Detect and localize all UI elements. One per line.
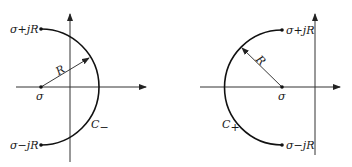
contour-diagrams: σ+jR σ−jR σ R C− σ+jR σ−jR σ R C+	[0, 0, 352, 167]
right-bottom-label: σ−jR	[286, 139, 314, 152]
left-bottom-dot	[39, 143, 43, 147]
right-bottom-dot	[280, 143, 284, 147]
right-top-label: σ+jR	[286, 24, 314, 37]
right-diagram: σ+jR σ−jR σ R C+	[200, 14, 340, 155]
left-bottom-label: σ−jR	[10, 139, 38, 152]
left-top-dot	[39, 27, 43, 31]
right-radius-label: R	[253, 52, 269, 68]
left-center-dot	[39, 85, 43, 89]
left-center-label: σ	[36, 90, 44, 103]
right-contour-label: C+	[222, 118, 240, 134]
right-top-dot	[280, 28, 284, 32]
right-center-label: σ	[278, 90, 286, 103]
left-radius-label: R	[53, 63, 68, 79]
right-center-dot	[280, 85, 284, 89]
left-diagram: σ+jR σ−jR σ R C−	[10, 14, 146, 162]
left-contour-label: C−	[91, 118, 109, 134]
left-top-label: σ+jR	[10, 23, 38, 36]
